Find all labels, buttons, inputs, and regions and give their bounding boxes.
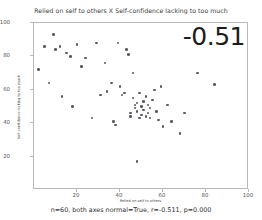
data-point (69, 55, 72, 58)
plot-area: -0.51 (33, 22, 248, 189)
data-point (127, 53, 130, 56)
data-point (179, 132, 182, 135)
data-point (147, 104, 150, 107)
y-tick-label: 20 (0, 153, 10, 159)
data-point (119, 85, 122, 88)
data-point (84, 57, 87, 60)
y-axis-label: Self-confidence lacking to too much (17, 42, 21, 172)
data-point (196, 72, 199, 75)
data-point (138, 117, 141, 120)
data-point (106, 90, 109, 93)
data-point (95, 42, 98, 45)
data-point (153, 89, 156, 92)
data-point (213, 83, 216, 86)
x-tick-label: 80 (190, 192, 220, 198)
scatter-plot-figure: Relied on self to others X Self-confiden… (0, 0, 262, 220)
data-point (54, 48, 57, 51)
y-tick-label: 60 (0, 86, 10, 92)
data-point (136, 110, 139, 113)
data-point (140, 114, 143, 117)
x-tick-label: 100 (233, 192, 262, 198)
data-point (110, 82, 113, 85)
data-point (99, 94, 102, 97)
data-point (170, 120, 173, 123)
stats-caption: n=60, both axes normal=True, r=-0.511, p… (0, 206, 262, 214)
data-point (155, 110, 158, 113)
data-point (162, 125, 165, 128)
data-point (43, 45, 46, 48)
chart-title: Relied on self to others X Self-confiden… (0, 7, 262, 14)
x-tick-label: 20 (61, 192, 91, 198)
data-point (91, 117, 94, 120)
data-point (112, 120, 115, 123)
data-point (76, 43, 79, 46)
data-point (104, 62, 107, 65)
data-point (59, 45, 62, 48)
y-tick-label: 40 (0, 119, 10, 125)
y-tick-label: 100 (0, 19, 10, 25)
data-point (123, 92, 126, 95)
data-point (145, 95, 148, 98)
data-point (136, 102, 139, 105)
data-point (136, 160, 139, 163)
data-point (142, 109, 145, 112)
data-point (149, 117, 152, 120)
data-point (114, 124, 117, 127)
data-point (160, 85, 163, 88)
data-point (37, 68, 40, 71)
y-tick-label: 80 (0, 52, 10, 58)
data-point (151, 99, 154, 102)
data-point (166, 104, 169, 107)
data-point (132, 97, 135, 100)
data-point (117, 42, 120, 45)
data-point (147, 112, 150, 115)
data-point (52, 33, 55, 36)
data-point (140, 105, 143, 108)
data-point (132, 72, 135, 75)
x-tick-label: 40 (104, 192, 134, 198)
data-point (157, 119, 160, 122)
data-point (71, 105, 74, 108)
data-point (61, 95, 64, 98)
data-point (129, 112, 132, 115)
data-point (183, 112, 186, 115)
data-point (125, 48, 128, 51)
data-point (65, 52, 68, 55)
data-point (48, 82, 51, 85)
correlation-annotation: -0.51 (183, 24, 245, 49)
data-point (142, 100, 145, 103)
x-tick-label: 60 (147, 192, 177, 198)
data-point (129, 115, 132, 118)
data-point (134, 107, 137, 110)
data-point (145, 115, 148, 118)
data-point (80, 65, 83, 68)
data-point (138, 92, 141, 95)
data-point (149, 107, 152, 110)
x-axis-label: Relied on self to others (33, 199, 248, 203)
